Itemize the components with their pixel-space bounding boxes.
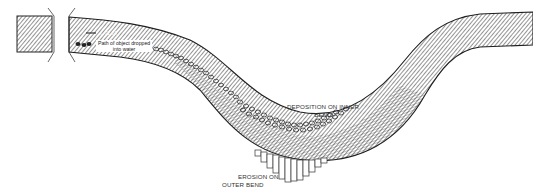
erosion-label: EROSION ON OUTER BEND <box>222 173 302 189</box>
river-meander-diagram <box>0 0 533 195</box>
erosion-label-line2: OUTER BEND <box>222 181 302 189</box>
river-channel <box>69 12 533 161</box>
path-label-line2: into water <box>98 46 150 52</box>
deposition-label-line2: BEND <box>258 111 388 119</box>
path-label: Path of object dropped into water <box>96 40 152 52</box>
river-left-segment <box>17 16 52 52</box>
scale-label: → 72 JA <box>98 30 117 36</box>
erosion-label-line1: EROSION ON <box>222 173 302 181</box>
deposition-label-line1: DEPOSITION ON INNER <box>258 103 388 111</box>
deposition-label: DEPOSITION ON INNER BEND <box>258 103 388 119</box>
